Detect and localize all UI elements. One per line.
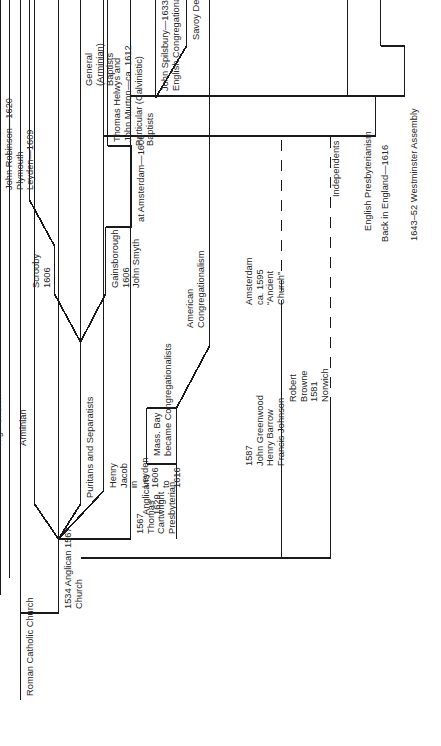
diagram-stage: THE DEVELOPMENT OF ENGLISH PURITANISM Ro… — [0, 0, 441, 746]
node-particular-calvinistic-baptists: Particular (Calvinistic) Baptists — [133, 56, 154, 146]
node-thomas-cartwright-presbyterian: 1567 Thomas Cartwright Presbyterian — [134, 482, 176, 534]
node-puritans-and-separatists: Puritans and Separatists — [84, 397, 95, 498]
node-robert-browne-norwich: Robert Browne 1581 Norwich — [287, 368, 329, 402]
node-greenwood-barrow-johnson: 1587 John Greenwood Henry Barrow Francis… — [243, 395, 285, 466]
node-gainsborough-john-smyth: Gainsborough 1606 John Smyth — [109, 230, 141, 288]
node-amsterdam-ancient-church: Amsterdam ca. 1595 “Ancient Church” — [243, 257, 285, 305]
node-john-spilsbury-1633: John Spilsbury—1633 — [159, 0, 170, 91]
node-at-amsterdam-1606: at Amsterdam—1606 — [135, 135, 146, 222]
diagram-canvas: THE DEVELOPMENT OF ENGLISH PURITANISM Ro… — [0, 0, 441, 746]
node-english-presbyterianism: English Presbyterianism — [362, 131, 373, 231]
node-general-arminian-baptists: General (Arminian) Baptists — [83, 43, 115, 86]
diagram-lines — [0, 0, 441, 746]
node-westminster-assembly: 1643–52 Westminster Assembly — [408, 108, 419, 241]
node-independents: Independents — [330, 141, 341, 197]
node-anglican-church: 1534 Anglican 1567 Church — [62, 527, 83, 609]
node-savoy-declaration-1658: Savoy Declaration—1658 — [190, 0, 201, 40]
node-john-robinson-plymouth: John Robinson—1620 Plymouth Leyden—1609 — [3, 98, 35, 190]
line-scrooby-to-robinson — [29, 200, 54, 246]
node-roman-catholic-church: Roman Catholic Church — [24, 597, 35, 696]
node-back-in-england-1616: Back in England—1616 — [379, 145, 390, 242]
line-puritans-to-gainsborough — [80, 294, 105, 342]
node-high-church: High Church — [0, 394, 3, 446]
node-arminian: Arminian — [17, 409, 28, 446]
node-english-congregationalism: English Congregationalism — [170, 0, 181, 91]
node-mass-bay: Mass. Bay became Congregationalists — [151, 343, 172, 456]
line-massbay-to-american-cong — [176, 346, 209, 408]
line-anglican-to-arminian — [34, 504, 58, 539]
node-american-congregationalism: American Congregationalism — [184, 250, 205, 328]
node-scrooby-1606: Scrooby 1606 — [30, 254, 51, 288]
